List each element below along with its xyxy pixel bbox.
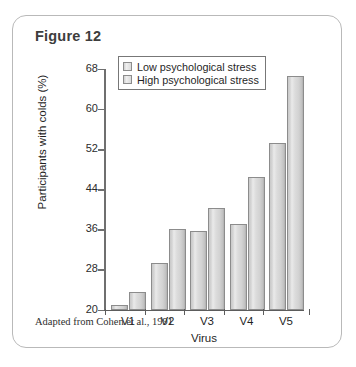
x-tick-mark-5 bbox=[263, 309, 264, 315]
y-axis-title: Participants with colds (%) bbox=[36, 52, 48, 232]
y-tick-label-44: 44 bbox=[42, 182, 98, 194]
y-tick-label-52: 52 bbox=[42, 142, 98, 154]
x-tick-mark-2 bbox=[145, 309, 146, 315]
bar-v4-low-stress bbox=[230, 224, 247, 310]
legend-label-low-stress: Low psychological stress bbox=[137, 61, 256, 73]
bar-v3-high-stress bbox=[208, 208, 225, 310]
bar-v2-low-stress bbox=[151, 263, 168, 310]
x-tick-mark-3 bbox=[184, 309, 185, 315]
x-tick-mark-end bbox=[309, 309, 310, 315]
y-tick-label-28: 28 bbox=[42, 262, 98, 274]
y-tick-mark-28 bbox=[98, 269, 104, 270]
figure-card: Figure 12 20283644526068 Participants wi… bbox=[12, 15, 342, 348]
x-tick-mark-4 bbox=[224, 309, 225, 315]
bar-v1-low-stress bbox=[111, 305, 128, 310]
legend-swatch-low-stress bbox=[123, 62, 132, 71]
bar-chart: 20283644526068 Participants with colds (… bbox=[13, 16, 343, 349]
chart-legend: Low psychological stress High psychologi… bbox=[118, 56, 266, 90]
y-tick-mark-36 bbox=[98, 229, 104, 230]
bar-v4-high-stress bbox=[248, 177, 265, 309]
y-tick-mark-68 bbox=[98, 69, 104, 70]
legend-label-high-stress: High psychological stress bbox=[137, 74, 259, 86]
bar-v2-high-stress bbox=[169, 229, 186, 310]
y-tick-label-20: 20 bbox=[42, 303, 98, 315]
x-axis-line bbox=[104, 310, 304, 312]
y-tick-label-68: 68 bbox=[42, 62, 98, 74]
x-axis-title: Virus bbox=[104, 332, 304, 344]
y-tick-mark-60 bbox=[98, 109, 104, 110]
y-tick-mark-20 bbox=[98, 310, 104, 311]
bar-v5-low-stress bbox=[269, 143, 286, 309]
x-tick-label-v5: V5 bbox=[266, 315, 306, 327]
bar-v3-low-stress bbox=[190, 231, 207, 309]
legend-item-high-stress: High psychological stress bbox=[123, 73, 259, 86]
y-tick-mark-44 bbox=[98, 189, 104, 190]
legend-swatch-high-stress bbox=[123, 75, 132, 84]
y-tick-label-60: 60 bbox=[42, 102, 98, 114]
y-tick-mark-52 bbox=[98, 149, 104, 150]
legend-item-low-stress: Low psychological stress bbox=[123, 60, 259, 73]
bars-layer bbox=[105, 69, 303, 310]
x-tick-label-v4: V4 bbox=[227, 315, 267, 327]
bar-v5-high-stress bbox=[287, 76, 304, 309]
y-tick-label-36: 36 bbox=[42, 222, 98, 234]
x-tick-label-v3: V3 bbox=[187, 315, 227, 327]
x-tick-mark-1 bbox=[105, 309, 106, 315]
bar-v1-high-stress bbox=[129, 292, 146, 309]
figure-caption: Adapted from Cohen et al., 1991 bbox=[35, 316, 173, 327]
